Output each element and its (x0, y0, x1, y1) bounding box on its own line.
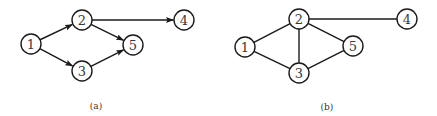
node-label: 3 (78, 64, 86, 79)
edge-3-5 (91, 50, 124, 67)
node-label: 4 (180, 13, 188, 28)
node-label: 5 (129, 38, 137, 53)
edge-1-3 (40, 49, 73, 66)
node-2: 2 (72, 10, 92, 30)
node-3: 3 (289, 63, 309, 83)
node-5: 5 (123, 35, 143, 55)
node-4: 4 (397, 9, 417, 29)
edge-1-3 (254, 51, 290, 68)
edge-3-5 (308, 50, 344, 68)
node-3: 3 (72, 61, 92, 81)
nodes-b: 12345 (235, 9, 417, 83)
edge-2-5 (308, 23, 344, 41)
node-label: 2 (295, 12, 303, 27)
directed-graph-a: 12345 (a) (21, 10, 194, 111)
undirected-graph-b: 12345 (b) (235, 9, 417, 112)
node-label: 3 (295, 66, 303, 81)
edge-1-2 (40, 24, 72, 39)
node-1: 1 (21, 34, 41, 54)
caption-a: (a) (90, 101, 102, 111)
node-label: 1 (241, 40, 249, 55)
caption-b: (b) (321, 102, 334, 112)
node-4: 4 (174, 10, 194, 30)
edges-b (254, 19, 397, 69)
node-label: 1 (27, 37, 35, 52)
node-5: 5 (343, 36, 363, 56)
edge-1-2 (254, 24, 290, 43)
graph-canvas: 12345 (a) 12345 (b) (0, 0, 437, 116)
node-1: 1 (235, 37, 255, 57)
node-2: 2 (289, 9, 309, 29)
node-label: 2 (78, 13, 86, 28)
edges-a (40, 20, 174, 66)
node-label: 5 (349, 39, 357, 54)
edge-2-5 (91, 24, 124, 40)
node-label: 4 (403, 12, 411, 27)
